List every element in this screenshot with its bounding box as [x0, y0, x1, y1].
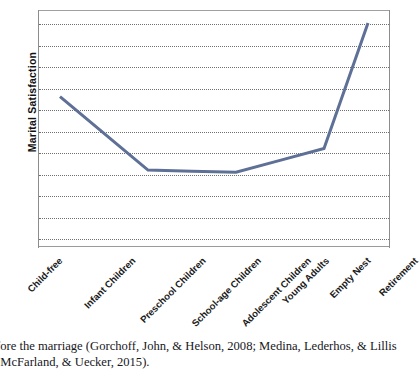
x-tick-label-0: Child-free	[25, 255, 64, 294]
x-axis-tick-labels: Child-free Infant Children Preschool Chi…	[0, 247, 405, 336]
series-polyline	[60, 23, 368, 172]
data-series-line	[38, 10, 390, 248]
x-tick-label-7: Retirement	[377, 255, 420, 298]
y-axis-label: Marital Satisfaction	[26, 32, 38, 172]
caption-line-1: fore the marriage (Gorchoff, John, & Hel…	[0, 338, 397, 354]
line-chart: Marital Satisfaction Child-free Infant C…	[0, 0, 405, 336]
caption-line-2: , McFarland, & Uecker, 2015).	[0, 354, 149, 370]
x-tick-label-6: Empty Nest	[327, 255, 372, 300]
x-tick-label-1: Infant Children	[82, 255, 138, 311]
